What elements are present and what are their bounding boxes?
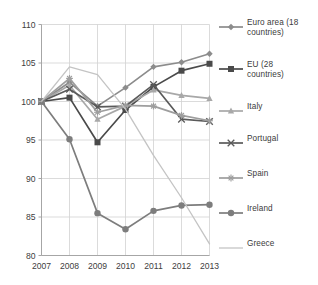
svg-text:95: 95 [26, 135, 36, 145]
svg-text:105: 105 [21, 58, 36, 68]
legend-label: Italy [244, 102, 263, 112]
legend-item-ireland[interactable]: Ireland [218, 204, 318, 217]
legend-label: Portugal [244, 134, 278, 144]
legend-item-greece[interactable]: Greece [218, 239, 318, 252]
legend-key-circle-icon [218, 205, 244, 217]
svg-text:85: 85 [26, 212, 36, 222]
svg-text:2007: 2007 [32, 261, 51, 271]
svg-text:90: 90 [26, 174, 36, 184]
legend-item-eu-28-countries[interactable]: EU (28 countries) [218, 60, 318, 79]
legend-key-diamond-icon [218, 19, 244, 31]
svg-text:80: 80 [26, 251, 36, 261]
legend-label: Spain [244, 169, 268, 179]
legend-item-spain[interactable]: Spain [218, 169, 318, 182]
legend-key-star-icon [218, 170, 244, 182]
chart-legend: Euro area (18 countries)EU (28 countries… [218, 10, 318, 260]
legend-label: Ireland [244, 204, 273, 214]
svg-text:2012: 2012 [172, 261, 191, 271]
legend-key-triangle-icon [218, 103, 244, 115]
y-axis-tick-labels: 80859095100105110 [21, 20, 41, 261]
svg-text:2008: 2008 [60, 261, 79, 271]
legend-label: EU (28 countries) [244, 60, 284, 79]
legend-key-square-icon [218, 61, 244, 73]
legend-item-portugal[interactable]: Portugal [218, 134, 318, 147]
svg-text:2010: 2010 [116, 261, 135, 271]
svg-text:110: 110 [22, 20, 36, 30]
legend-label: Greece [244, 239, 274, 249]
legend-key-x-icon [218, 135, 244, 147]
legend-label: Euro area (18 countries) [244, 18, 298, 37]
x-axis-tick-labels: 2007200820092010201120122013 [32, 261, 219, 271]
line-chart: 80859095100105110 2007200820092010201120… [0, 0, 318, 285]
legend-item-euro-area-18-countries[interactable]: Euro area (18 countries) [218, 18, 318, 37]
svg-text:100: 100 [21, 97, 36, 107]
legend-key-none-icon [218, 240, 244, 252]
legend-item-italy[interactable]: Italy [218, 102, 318, 115]
svg-text:2009: 2009 [88, 261, 107, 271]
svg-text:2013: 2013 [200, 261, 219, 271]
svg-text:2011: 2011 [144, 261, 163, 271]
